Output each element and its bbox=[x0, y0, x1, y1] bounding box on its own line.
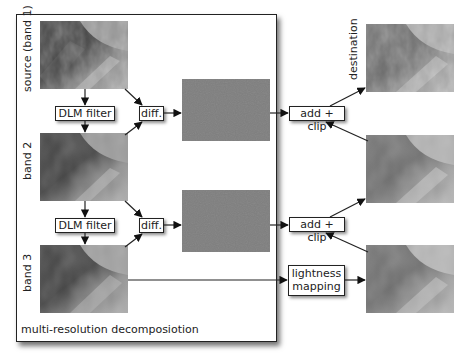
intermediate-image bbox=[366, 135, 454, 203]
add-clip-box-2: add + clip bbox=[289, 217, 345, 232]
source-band1-image bbox=[40, 21, 128, 89]
diff-box-1: diff. bbox=[139, 106, 164, 121]
add-clip-box-1: add + clip bbox=[289, 106, 345, 121]
detail-layer-1 bbox=[182, 79, 270, 141]
arrow-output2-to-add1 bbox=[326, 122, 368, 141]
band3-image bbox=[40, 245, 128, 313]
lightness-mapping-box: lightness mapping bbox=[288, 265, 345, 296]
band2-label: band 2 bbox=[21, 142, 34, 180]
destination-label: destination bbox=[347, 18, 360, 80]
diff-box-2: diff. bbox=[139, 218, 164, 233]
lightness-mapped-image bbox=[366, 245, 454, 313]
lightness-mapping-line1: lightness bbox=[289, 267, 344, 280]
arrow-add1-to-destination bbox=[330, 88, 365, 106]
destination-image bbox=[366, 24, 454, 92]
panel-caption: multi-resolution decomposiotion bbox=[21, 323, 199, 336]
source-band1-label: source (band 1) bbox=[21, 5, 34, 92]
dlm-filter-box-2: DLM filter bbox=[55, 218, 115, 233]
band3-label: band 3 bbox=[21, 254, 34, 292]
dlm-filter-box-1: DLM filter bbox=[55, 106, 115, 121]
detail-layer-2 bbox=[182, 190, 270, 252]
arrow-add2-to-output2 bbox=[330, 199, 365, 217]
lightness-mapping-line2: mapping bbox=[289, 280, 344, 293]
arrow-output3-to-add2 bbox=[326, 233, 368, 252]
band2-image bbox=[40, 133, 128, 201]
